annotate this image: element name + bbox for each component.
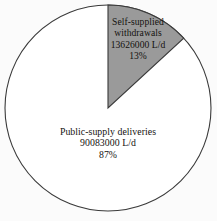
slice-label-self-supplied-line2: withdrawals bbox=[88, 27, 188, 38]
pie-chart-figure: Self-supplied withdrawals 13626000 L/d 1… bbox=[0, 0, 217, 221]
slice-label-public-supply: Public-supply deliveries 90083000 L/d 87… bbox=[33, 126, 183, 160]
slice-percent-public-supply: 87% bbox=[33, 149, 183, 160]
slice-value-public-supply: 90083000 L/d bbox=[33, 137, 183, 148]
slice-label-self-supplied-line1: Self-supplied bbox=[88, 16, 188, 27]
slice-value-self-supplied: 13626000 L/d bbox=[88, 39, 188, 50]
slice-percent-self-supplied: 13% bbox=[88, 50, 188, 61]
slice-label-public-supply-line1: Public-supply deliveries bbox=[33, 126, 183, 137]
slice-label-self-supplied: Self-supplied withdrawals 13626000 L/d 1… bbox=[88, 16, 188, 61]
